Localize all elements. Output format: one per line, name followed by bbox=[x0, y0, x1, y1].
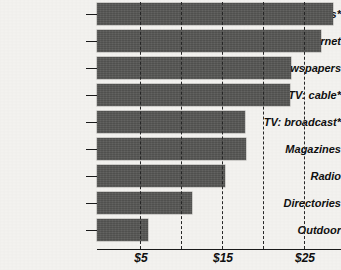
leader-line-directories bbox=[86, 203, 97, 204]
gridline-5 bbox=[140, 2, 141, 249]
category-label-outdoor: Outdoor bbox=[255, 224, 341, 236]
leader-line-tv-cable bbox=[86, 95, 97, 96]
leader-line-outdoor bbox=[86, 230, 97, 231]
bar-internet bbox=[97, 30, 321, 52]
category-label-magazines: Magazines bbox=[255, 143, 341, 155]
bar-radio bbox=[97, 165, 225, 187]
x-tick-label-25: $25 bbox=[295, 252, 315, 265]
gridline-25 bbox=[304, 2, 305, 249]
bar-newspapers bbox=[97, 57, 291, 79]
bar-chart: TV: stations* Internet Newspapers TV: ca… bbox=[0, 0, 341, 270]
bar-tv-cable bbox=[97, 84, 290, 106]
bar-directories bbox=[97, 192, 192, 214]
gridline-20 bbox=[263, 2, 264, 249]
gridline-10 bbox=[181, 2, 182, 249]
leader-line-internet bbox=[86, 41, 97, 42]
leader-line-radio bbox=[86, 176, 97, 177]
category-label-tv-broadcast: TV: broadcast* bbox=[255, 116, 341, 128]
bar-magazines bbox=[97, 138, 246, 160]
leader-line-tv-stations bbox=[86, 14, 97, 15]
gridline-15 bbox=[222, 2, 223, 249]
leader-line-tv-broadcast bbox=[86, 122, 97, 123]
category-label-radio: Radio bbox=[255, 170, 341, 182]
x-tick-label-15: $15 bbox=[213, 252, 233, 265]
leader-line-magazines bbox=[86, 149, 97, 150]
x-axis-line bbox=[97, 249, 341, 250]
category-label-directories: Directories bbox=[255, 197, 341, 209]
x-tick-label-5: $5 bbox=[134, 252, 147, 265]
bar-tv-stations bbox=[97, 3, 333, 25]
plot-area: TV: stations* Internet Newspapers TV: ca… bbox=[0, 0, 341, 270]
leader-line-newspapers bbox=[86, 68, 97, 69]
